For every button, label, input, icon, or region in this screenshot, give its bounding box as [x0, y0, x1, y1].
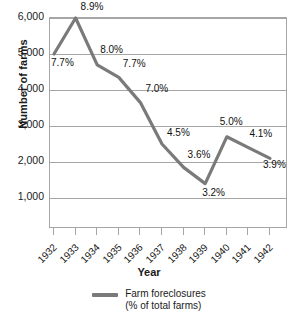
value-label-1932: 7.7% — [51, 57, 74, 68]
x-tick-1938 — [183, 228, 184, 235]
x-tick-1937 — [161, 228, 162, 235]
value-label-1939: 3.2% — [202, 187, 225, 198]
x-axis-title: Year — [0, 266, 298, 278]
legend-label-line1: Farm foreclosures — [125, 288, 206, 300]
x-tick-1932 — [53, 228, 54, 235]
y-tick-label-6000: 6,000 — [0, 10, 44, 22]
value-label-1935: 7.7% — [123, 58, 146, 69]
value-label-1937: 4.5% — [167, 127, 190, 138]
x-tick-1939 — [204, 228, 205, 235]
y-tick-label-1000: 1,000 — [0, 190, 44, 202]
y-tick-label-4000: 4,000 — [0, 82, 44, 94]
x-tick-1935 — [118, 228, 119, 235]
legend-swatch-farm-foreclosures — [92, 293, 118, 297]
chart-legend: Farm foreclosures (% of total farms) — [0, 288, 298, 311]
legend-label: Farm foreclosures (% of total farms) — [125, 288, 206, 311]
value-label-1940: 5.0% — [220, 116, 243, 127]
x-tick-1933 — [75, 228, 76, 235]
legend-label-line2: (% of total farms) — [125, 300, 206, 312]
y-tick-label-5000: 5,000 — [0, 46, 44, 58]
y-tick-label-2000: 2,000 — [0, 154, 44, 166]
value-label-1938: 3.6% — [188, 149, 211, 160]
y-tick-label-3000: 3,000 — [0, 118, 44, 130]
value-label-1942: 3.9% — [263, 159, 286, 170]
value-label-1933: 8.9% — [81, 1, 104, 12]
x-tick-1941 — [247, 228, 248, 235]
x-tick-1940 — [226, 228, 227, 235]
value-label-1941: 4.1% — [249, 128, 272, 139]
x-tick-1936 — [139, 228, 140, 235]
value-label-1936: 7.0% — [145, 83, 168, 94]
x-tick-1942 — [269, 228, 270, 235]
series-farm-foreclosures — [50, 18, 288, 229]
value-label-1934: 8.0% — [100, 44, 123, 55]
farm-foreclosures-line-chart: Number of farms 6,0005,0004,0003,0002,00… — [0, 0, 298, 315]
x-tick-1934 — [96, 228, 97, 235]
plot-area — [49, 17, 287, 228]
